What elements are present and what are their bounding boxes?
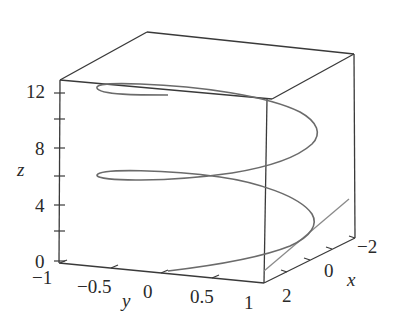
helix-3d-plot: 12 8 z 4 0 −1 −0.5 y 0 0.5 1 2 0 x −2 bbox=[0, 0, 404, 316]
z-tick-label-12: 12 bbox=[26, 82, 45, 101]
x-tick-label-2: 2 bbox=[282, 286, 292, 305]
x-axis-label: x bbox=[347, 270, 355, 289]
x-tick-label-minus-2: −2 bbox=[357, 237, 377, 256]
y-tick-label-1: 1 bbox=[244, 293, 254, 312]
x-axis-line bbox=[264, 238, 355, 283]
x-tick-label-0: 0 bbox=[324, 261, 334, 280]
y-tick-label-0: 0 bbox=[143, 282, 153, 301]
helix-curve bbox=[97, 84, 317, 271]
y-axis-label: y bbox=[122, 291, 130, 310]
z-tick-label-4: 4 bbox=[35, 196, 45, 215]
bounding-box bbox=[59, 32, 355, 283]
z-tick-label-8: 8 bbox=[35, 139, 45, 158]
z-axis-label: z bbox=[17, 160, 24, 179]
y-tick-label-minus-0-5: −0.5 bbox=[77, 277, 111, 296]
plot-canvas bbox=[0, 0, 404, 316]
y-tick-label-minus-1: −1 bbox=[32, 268, 52, 287]
x-axis-ticks bbox=[281, 236, 355, 272]
z-axis-line bbox=[59, 80, 60, 263]
y-tick-label-0-5: 0.5 bbox=[190, 287, 214, 306]
